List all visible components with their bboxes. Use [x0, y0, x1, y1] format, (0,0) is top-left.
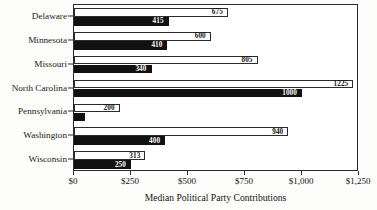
- x-axis-tick: [73, 171, 74, 175]
- bar-value-label: 400: [149, 137, 160, 145]
- category-tick: [68, 111, 73, 112]
- bar-value-label: 600: [195, 32, 206, 40]
- bar-value-label: 1225: [334, 80, 349, 88]
- bar-value-label: 805: [241, 56, 252, 64]
- chart-figure: 6754156004108053401225100020094040031325…: [0, 0, 377, 210]
- category-label-north-carolina: North Carolina: [12, 83, 67, 93]
- bar-north-carolina-upper: 1225: [74, 80, 353, 89]
- category-tick: [68, 63, 73, 64]
- bar-missouri-lower: 340: [74, 65, 152, 74]
- x-axis-tick-label: $0: [69, 176, 78, 186]
- bar-minnesota-lower: 410: [74, 41, 167, 50]
- category-label-washington: Washington: [23, 130, 67, 140]
- bar-pennsylvania-lower: [74, 113, 85, 122]
- bar-value-label: 200: [104, 104, 115, 112]
- bar-value-label: 410: [151, 41, 162, 49]
- category-label-wisconsin: Wisconsin: [29, 154, 67, 164]
- x-axis-tick: [187, 171, 188, 175]
- bar-wisconsin-upper: 313: [74, 151, 145, 160]
- bar-value-label: 250: [115, 161, 126, 169]
- x-axis: $0$250$500$750$1,000$1,250: [73, 171, 358, 193]
- category-tick: [68, 15, 73, 16]
- bar-pennsylvania-upper: 200: [74, 104, 120, 113]
- bar-value-label: 675: [212, 8, 223, 16]
- x-axis-tick-label: $750: [235, 176, 253, 186]
- bar-value-label: 415: [153, 17, 164, 25]
- category-label-delaware: Delaware: [32, 11, 67, 21]
- bar-value-label: 1000: [282, 89, 297, 97]
- x-axis-tick-label: $1,000: [289, 176, 314, 186]
- bar-delaware-lower: 415: [74, 17, 169, 26]
- x-axis-tick-label: $250: [121, 176, 139, 186]
- category-tick: [68, 39, 73, 40]
- x-axis-tick: [301, 171, 302, 175]
- bar-washington-upper: 940: [74, 127, 288, 136]
- category-label-minnesota: Minnesota: [28, 35, 67, 45]
- bar-value-label: 313: [129, 152, 140, 160]
- bar-delaware-upper: 675: [74, 8, 228, 17]
- category-tick: [68, 87, 73, 88]
- x-axis-tick: [244, 171, 245, 175]
- x-axis-tick: [130, 171, 131, 175]
- bar-washington-lower: 400: [74, 136, 165, 145]
- plot-area: 6754156004108053401225100020094040031325…: [73, 4, 358, 171]
- category-label-pennsylvania: Pennsylvania: [18, 106, 67, 116]
- category-tick: [68, 159, 73, 160]
- bar-missouri-upper: 805: [74, 56, 258, 65]
- bar-wisconsin-lower: 250: [74, 160, 131, 169]
- bar-minnesota-upper: 600: [74, 32, 211, 41]
- bar-north-carolina-lower: 1000: [74, 89, 302, 98]
- x-axis-tick-label: $500: [178, 176, 196, 186]
- x-axis-tick-label: $1,250: [346, 176, 371, 186]
- bar-value-label: 940: [272, 128, 283, 136]
- x-axis-tick: [358, 171, 359, 175]
- x-axis-title: Median Political Party Contributions: [73, 192, 358, 203]
- category-tick: [68, 135, 73, 136]
- category-label-missouri: Missouri: [34, 59, 67, 69]
- category-axis: DelawareMinnesotaMissouriNorth CarolinaP…: [0, 4, 73, 171]
- bar-value-label: 340: [135, 65, 146, 73]
